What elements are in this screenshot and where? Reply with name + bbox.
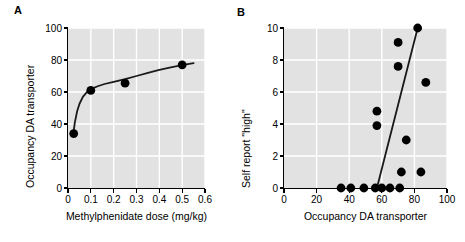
panel-a-y-axis-title: Occupancy DA transporter xyxy=(24,65,36,188)
panel-b-x-axis-title: Occupancy DA transporter xyxy=(304,210,427,222)
fit-curve xyxy=(73,63,194,136)
x-tick-mark xyxy=(113,189,114,193)
y-tick-mark xyxy=(64,27,68,28)
y-tick-label: 0 xyxy=(34,183,62,194)
y-tick-label: 2 xyxy=(250,151,278,162)
x-tick-label: 0.3 xyxy=(130,194,144,205)
figure-container: A 02040608010000.10.20.30.40.50.6 Methyl… xyxy=(0,0,465,242)
x-tick-mark xyxy=(136,189,137,193)
panel-a: A 02040608010000.10.20.30.40.50.6 Methyl… xyxy=(0,0,232,242)
x-tick-label: 80 xyxy=(409,194,420,205)
y-tick-label: 80 xyxy=(34,55,62,66)
panel-a-letter: A xyxy=(14,4,22,16)
panel-b-data-layer xyxy=(284,28,447,188)
x-tick-mark xyxy=(446,189,447,193)
x-tick-label: 20 xyxy=(311,194,322,205)
x-tick-mark xyxy=(67,189,68,193)
data-point xyxy=(121,79,130,88)
data-point xyxy=(86,86,95,95)
panel-b-plot-area xyxy=(284,28,447,188)
x-tick-label: 0.5 xyxy=(175,194,189,205)
data-point xyxy=(421,78,430,87)
x-tick-label: 0 xyxy=(65,194,71,205)
x-tick-label: 0.1 xyxy=(84,194,98,205)
data-point xyxy=(373,121,382,130)
y-tick-mark xyxy=(64,155,68,156)
data-point xyxy=(397,168,406,177)
y-tick-mark xyxy=(280,59,284,60)
x-tick-label: 40 xyxy=(344,194,355,205)
y-tick-label: 4 xyxy=(250,119,278,130)
x-tick-mark xyxy=(381,189,382,193)
y-tick-label: 0 xyxy=(250,183,278,194)
x-tick-label: 0.2 xyxy=(107,194,121,205)
x-tick-mark xyxy=(349,189,350,193)
y-tick-mark xyxy=(280,91,284,92)
panel-a-x-axis-title: Methylphenidate dose (mg/kg) xyxy=(66,210,207,222)
x-tick-label: 0 xyxy=(281,194,287,205)
panel-b-letter: B xyxy=(237,6,245,18)
regression-line xyxy=(377,28,418,188)
panel-b-y-axis-title: Self report "high" xyxy=(240,109,252,188)
y-tick-label: 60 xyxy=(34,87,62,98)
panel-b: B 0246810020406080100 Occupancy DA trans… xyxy=(221,0,465,242)
x-tick-mark xyxy=(90,189,91,193)
y-tick-mark xyxy=(280,123,284,124)
data-point xyxy=(178,60,187,69)
y-axis-line xyxy=(67,28,68,188)
data-point xyxy=(373,107,382,116)
x-tick-mark xyxy=(159,189,160,193)
x-tick-mark xyxy=(316,189,317,193)
panel-a-data-layer xyxy=(68,28,205,188)
y-tick-label: 20 xyxy=(34,151,62,162)
y-tick-mark xyxy=(280,155,284,156)
data-point xyxy=(394,38,403,47)
x-tick-label: 0.4 xyxy=(152,194,166,205)
y-tick-mark xyxy=(64,123,68,124)
y-tick-label: 40 xyxy=(34,119,62,130)
y-tick-mark xyxy=(280,27,284,28)
x-tick-mark xyxy=(182,189,183,193)
panel-a-plot-area xyxy=(68,28,205,188)
data-point xyxy=(69,129,78,138)
y-tick-mark xyxy=(64,91,68,92)
y-tick-label: 8 xyxy=(250,55,278,66)
x-tick-label: 60 xyxy=(376,194,387,205)
y-tick-label: 6 xyxy=(250,87,278,98)
y-tick-label: 10 xyxy=(250,23,278,34)
x-tick-label: 0.6 xyxy=(198,194,212,205)
x-tick-label: 100 xyxy=(439,194,456,205)
y-tick-label: 100 xyxy=(34,23,62,34)
x-tick-mark xyxy=(414,189,415,193)
x-axis-line xyxy=(283,188,447,189)
data-point xyxy=(413,24,422,33)
y-axis-line xyxy=(283,28,284,188)
x-tick-mark xyxy=(283,189,284,193)
y-tick-mark xyxy=(64,59,68,60)
data-point xyxy=(402,136,411,145)
data-point xyxy=(394,62,403,71)
data-point xyxy=(417,168,426,177)
x-tick-mark xyxy=(204,189,205,193)
